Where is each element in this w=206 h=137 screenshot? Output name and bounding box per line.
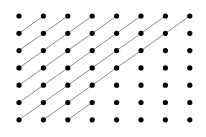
diagonal-segment: [68, 103, 92, 120]
diagonal-segment: [19, 16, 43, 33]
diagonal-segment: [19, 33, 43, 50]
lattice-dot: [163, 65, 168, 70]
lattice-dot: [163, 31, 168, 36]
lattice-dot: [187, 100, 192, 105]
lattice-dot: [138, 31, 143, 36]
lattice-dot: [163, 117, 168, 122]
diagonal-segment: [68, 16, 92, 33]
diagonal-segment: [68, 33, 92, 50]
lattice-dot: [16, 13, 21, 18]
lattice-dot: [65, 100, 70, 105]
diagonal-segment: [43, 51, 67, 68]
diagonal-segment: [141, 33, 165, 50]
lattice-dot: [16, 83, 21, 88]
lattice-dot: [90, 117, 95, 122]
lattice-dot: [187, 48, 192, 53]
lattice-dot: [41, 65, 46, 70]
lattice-dot: [187, 83, 192, 88]
lattice-dot: [138, 13, 143, 18]
lattice-dot: [114, 48, 119, 53]
diagonal-segment: [43, 33, 67, 50]
diagonal-segment: [117, 16, 141, 33]
diagonal-segment: [19, 68, 43, 85]
lattice-dot: [65, 13, 70, 18]
diagonal-segment: [92, 68, 116, 85]
lattice-dot: [187, 65, 192, 70]
lattice-dot: [41, 13, 46, 18]
diagonal-segment: [68, 68, 92, 85]
lattice-dot: [138, 65, 143, 70]
lattice-canvas: [0, 0, 206, 137]
lattice-dot: [16, 31, 21, 36]
lattice-dot: [90, 83, 95, 88]
lattice-dot-layer: [16, 13, 192, 122]
lattice-dot: [41, 31, 46, 36]
lattice-dot: [163, 83, 168, 88]
diagonal-segment: [92, 16, 116, 33]
lattice-dot: [114, 65, 119, 70]
diagonal-segment: [117, 33, 141, 50]
diagonal-segment: [92, 33, 116, 50]
diagonal-segment: [68, 51, 92, 68]
lattice-dot: [65, 31, 70, 36]
lattice-dot: [16, 65, 21, 70]
lattice-dot: [138, 117, 143, 122]
lattice-dot: [90, 31, 95, 36]
diagonal-segment: [43, 103, 67, 120]
lattice-dot: [138, 83, 143, 88]
lattice-dot: [90, 13, 95, 18]
lattice-dot: [90, 100, 95, 105]
lattice-dot: [114, 100, 119, 105]
lattice-dot: [187, 117, 192, 122]
lattice-dot: [65, 83, 70, 88]
lattice-dot: [114, 31, 119, 36]
lattice-dot: [41, 100, 46, 105]
lattice-dot: [114, 117, 119, 122]
diagonal-segment: [141, 16, 165, 33]
lattice-dot: [114, 83, 119, 88]
diagonal-segment: [43, 68, 67, 85]
diagonal-segment: [165, 16, 189, 33]
lattice-dot: [187, 13, 192, 18]
lattice-dot: [163, 100, 168, 105]
lattice-dot: [187, 31, 192, 36]
lattice-dot: [163, 48, 168, 53]
lattice-dot: [138, 100, 143, 105]
lattice-dot: [65, 117, 70, 122]
diagonal-segment: [19, 51, 43, 68]
diagonal-segment: [68, 85, 92, 102]
lattice-dot: [138, 48, 143, 53]
diagonal-segment: [43, 16, 67, 33]
lattice-dot: [41, 117, 46, 122]
diagonal-segment: [117, 51, 141, 68]
lattice-dot: [114, 13, 119, 18]
lattice-dot: [16, 100, 21, 105]
diagonal-segment: [19, 103, 43, 120]
dot-lattice-figure: [0, 0, 206, 137]
lattice-dot: [41, 48, 46, 53]
diagonal-segment: [92, 51, 116, 68]
lattice-dot: [65, 65, 70, 70]
diagonal-segment: [43, 85, 67, 102]
lattice-dot: [65, 48, 70, 53]
lattice-dot: [90, 48, 95, 53]
lattice-dot: [16, 117, 21, 122]
lattice-dot: [163, 13, 168, 18]
lattice-dot: [16, 48, 21, 53]
diagonal-segment: [19, 85, 43, 102]
lattice-dot: [41, 83, 46, 88]
lattice-dot: [90, 65, 95, 70]
